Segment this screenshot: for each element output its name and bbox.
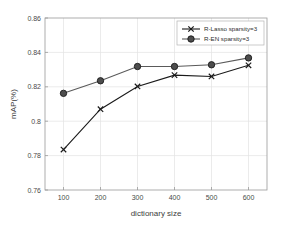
chart-legend: R-Lasso sparsity=3R-EN sparsity=3 (177, 21, 264, 45)
data-point-marker (60, 90, 66, 96)
legend-label: R-EN sparsity=3 (204, 35, 250, 42)
data-point-marker (188, 36, 194, 42)
data-point-marker (171, 63, 177, 69)
legend-entry-r-en[interactable]: R-EN sparsity=3 (182, 35, 250, 42)
y-tick-label: 0.82 (27, 83, 41, 90)
x-tick-label: 600 (243, 194, 255, 201)
data-point-marker (134, 63, 140, 69)
y-axis-title: mAP(%) (9, 89, 18, 119)
x-tick-label: 200 (95, 194, 107, 201)
data-point-marker (97, 78, 103, 84)
x-axis-title: dictionary size (131, 209, 182, 218)
x-tick-label: 500 (206, 194, 218, 201)
legend-label: R-Lasso sparsity=3 (204, 25, 258, 32)
data-point-marker (208, 62, 214, 68)
y-tick-label: 0.8 (31, 118, 41, 125)
y-tick-label: 0.78 (27, 152, 41, 159)
legend-entry-r-lasso[interactable]: R-Lasso sparsity=3 (182, 25, 258, 32)
x-tick-label: 100 (58, 194, 70, 201)
chart-figure: 0.760.780.80.820.840.86 1002003004005006… (0, 0, 287, 235)
y-tick-label: 0.84 (27, 49, 41, 56)
data-point-marker (245, 55, 251, 61)
y-tick-label: 0.76 (27, 187, 41, 194)
line-chart: 0.760.780.80.820.840.86 1002003004005006… (0, 0, 287, 235)
y-tick-label: 0.86 (27, 15, 41, 22)
x-tick-label: 300 (132, 194, 144, 201)
x-tick-label: 400 (169, 194, 181, 201)
